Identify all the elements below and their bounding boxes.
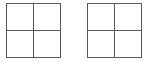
grid-cell	[115, 31, 142, 58]
grid-cell	[34, 31, 61, 58]
grid-cell	[7, 31, 34, 58]
grid-cell	[115, 4, 142, 31]
grid-cell	[88, 4, 115, 31]
grid-cell	[7, 4, 34, 31]
grid-2x2-right	[87, 3, 142, 58]
grid-2x2-left	[6, 3, 61, 58]
diagram-canvas	[0, 0, 148, 61]
grid-cell	[88, 31, 115, 58]
grid-cell	[34, 4, 61, 31]
